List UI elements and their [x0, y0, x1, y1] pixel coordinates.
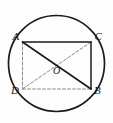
figure-canvas: A C D B O — [0, 0, 113, 123]
geometry-figure: A C D B O — [0, 0, 113, 123]
vertex-label-b: B — [94, 84, 101, 96]
vertex-label-c: C — [95, 30, 103, 42]
center-label-o: O — [53, 65, 60, 76]
vertex-label-a: A — [12, 30, 20, 42]
vertex-label-d: D — [10, 84, 19, 96]
